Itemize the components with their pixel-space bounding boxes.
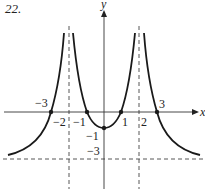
tick-label-neg2: −2 (53, 115, 66, 129)
label-neg3-point: −3 (35, 96, 48, 110)
point-x-neg3 (49, 110, 53, 114)
tick-label-2: 2 (141, 115, 147, 129)
y-label-neg1: −1 (86, 129, 99, 143)
label-3-point: 3 (159, 97, 165, 111)
tick-label-1: 1 (122, 115, 128, 129)
curve-left-branch (8, 33, 64, 155)
point-x-1 (119, 110, 123, 114)
point-x-neg1 (85, 110, 89, 114)
y-axis-arrow-icon (101, 10, 107, 17)
x-axis-label: x (199, 105, 205, 119)
figure-number: 22. (5, 1, 21, 16)
graph: 22. y x −3 3 −2 −1 1 2 −1 −3 (0, 0, 205, 189)
point-y-neg1 (102, 126, 106, 130)
y-axis-label: y (100, 0, 107, 11)
tick-label-neg1: −1 (73, 115, 86, 129)
curve-right-branch (144, 33, 200, 155)
x-axis-arrow-icon (192, 109, 199, 115)
y-label-neg3: −3 (87, 144, 100, 158)
